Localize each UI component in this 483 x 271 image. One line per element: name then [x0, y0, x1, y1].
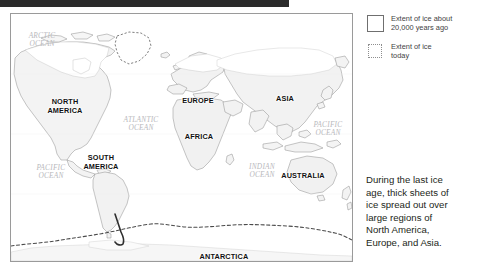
legend-swatch-solid-box — [367, 15, 384, 32]
map-label-north-america: NORTH AMERICA — [41, 98, 89, 115]
map-label-atlantic-ocean: ATLANTIC OCEAN — [115, 116, 167, 133]
map-label-pacific-ocean-west: PACIFIC OCEAN — [27, 164, 75, 181]
map-label-south-america: SOUTH AMERICA — [77, 154, 125, 171]
map-label-arctic-ocean: ARCTIC OCEAN — [19, 32, 65, 49]
legend-label-ice-20000-years-ago: Extent of ice about 20,000 years ago — [391, 14, 452, 33]
legend-swatch-dotted-box — [368, 44, 382, 58]
legend-label-ice-today: Extent of ice today — [391, 42, 432, 61]
top-black-bar — [0, 0, 289, 7]
legend-item-ice-20000-years-ago: Extent of ice about 20,000 years ago — [367, 14, 479, 33]
map-label-indian-ocean: INDIAN OCEAN — [239, 163, 285, 180]
map-legend: Extent of ice about 20,000 years ago Ext… — [367, 14, 479, 69]
map-label-europe: EUROPE — [173, 97, 223, 106]
map-label-antarctica: ANTARCTICA — [189, 253, 259, 262]
map-label-asia: ASIA — [265, 95, 305, 104]
map-label-pacific-ocean-east: PACIFIC OCEAN — [305, 121, 351, 138]
legend-item-ice-today: Extent of ice today — [367, 42, 479, 61]
map-label-africa: AFRICA — [175, 133, 223, 142]
world-map-panel: NORTH AMERICA SOUTH AMERICA EUROPE AFRIC… — [10, 13, 353, 262]
map-caption: During the last ice age, thick sheets of… — [366, 174, 482, 250]
